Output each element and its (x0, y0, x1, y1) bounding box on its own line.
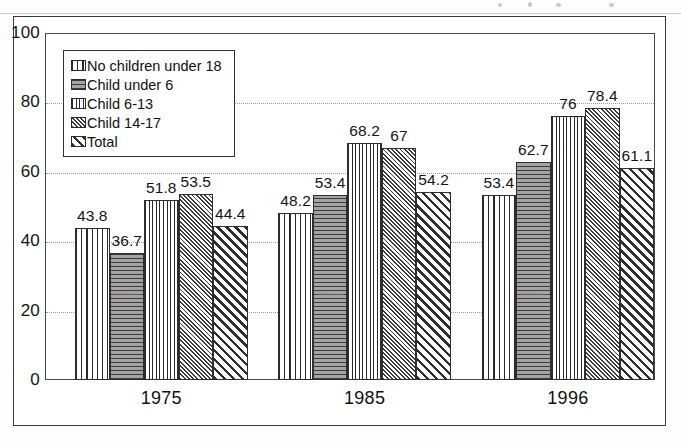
checkerboard-swatch (71, 136, 86, 147)
scan-speck (528, 2, 532, 7)
dense-crosshatch-swatch (71, 117, 86, 128)
y-axis-tick-label: 0 (0, 370, 40, 390)
horizontal-solid-gray-swatch (71, 79, 86, 90)
legend-item-label: Child under 6 (87, 77, 173, 93)
legend-item-label: Child 14-17 (87, 115, 161, 131)
legend-item-label: No children under 18 (87, 58, 222, 74)
gridline (46, 242, 654, 243)
scan-artifact-line (0, 13, 681, 14)
scan-speck (498, 3, 502, 7)
y-axis-labels: 020406080100 (0, 33, 40, 380)
scan-speck (556, 3, 561, 7)
gridline (46, 173, 654, 174)
x-axis-tick-label: 1975 (141, 388, 182, 409)
y-axis-tick-label: 20 (0, 301, 40, 321)
scan-speck (609, 3, 614, 7)
chart-legend: No children under 18Child under 6Child 6… (63, 50, 235, 157)
legend-item: Child under 6 (71, 75, 228, 94)
legend-item-label: Total (87, 134, 118, 150)
y-axis-tick-label: 60 (0, 162, 40, 182)
x-axis-tick-label: 1985 (344, 388, 385, 409)
legend-item: No children under 18 (71, 56, 228, 75)
vertical-stripe-swatch (71, 60, 86, 71)
legend-item: Child 14-17 (71, 113, 228, 132)
y-axis-tick-label: 100 (0, 23, 40, 43)
y-axis-tick-label: 40 (0, 231, 40, 251)
legend-item-label: Child 6-13 (87, 96, 153, 112)
gridline (46, 312, 654, 313)
chart-screenshot: 020406080100 43.836.751.853.544.448.253.… (0, 0, 681, 441)
legend-item: Total (71, 132, 228, 151)
x-axis-tick-label: 1996 (547, 388, 588, 409)
fine-grid-swatch (71, 98, 86, 109)
y-axis-tick-label: 80 (0, 92, 40, 112)
legend-item: Child 6-13 (71, 94, 228, 113)
